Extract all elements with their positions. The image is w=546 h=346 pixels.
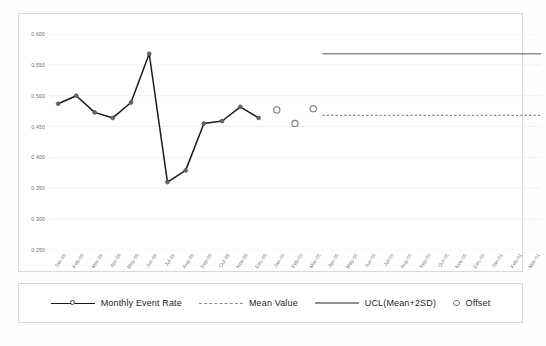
x-axis-tick: Jan-01 [491, 252, 505, 269]
x-axis-tick: Feb-99 [71, 252, 85, 269]
x-axis-tick: Jul-00 [382, 252, 395, 267]
y-axis-tick: 0.250 [31, 247, 45, 253]
x-axis: Jan-99Feb-99Mar-99Apr-99May-99Jun-99Jul-… [49, 252, 541, 286]
chart-legend: Monthly Event Rate Mean Value UCL(Mean+2… [18, 283, 523, 323]
offset-markers [274, 106, 317, 127]
x-axis-tick: Jan-00 [272, 252, 286, 269]
chart-panel: 0.600 0.550 0.500 0.450 0.400 0.350 0.30… [18, 13, 523, 272]
y-axis-tick: 0.350 [31, 185, 45, 191]
x-axis-tick: Dec-00 [472, 252, 486, 269]
x-axis-tick: Feb-00 [290, 252, 304, 269]
x-axis-tick: Oct-00 [436, 252, 450, 268]
x-axis-tick: Sep-00 [417, 252, 431, 269]
plot-area [49, 34, 541, 250]
open-circle-icon [453, 300, 460, 307]
y-axis-tick: 0.400 [31, 154, 45, 160]
x-axis-tick: Nov-99 [235, 252, 249, 269]
chart-screenshot: 0.600 0.550 0.500 0.450 0.400 0.350 0.30… [0, 0, 546, 346]
y-axis-tick: 0.450 [31, 124, 45, 130]
x-axis-tick: Mar-99 [89, 252, 103, 269]
legend-label: Monthly Event Rate [101, 298, 182, 308]
x-axis-tick: Apr-00 [327, 252, 341, 268]
legend-label: Mean Value [249, 298, 298, 308]
x-axis-tick: Aug-00 [399, 252, 413, 269]
y-axis-tick: 0.550 [31, 62, 45, 68]
x-axis-tick: Dec-99 [253, 252, 267, 269]
y-axis-tick: 0.300 [31, 216, 45, 222]
x-axis-tick: May-00 [344, 252, 359, 270]
legend-item-ucl: UCL(Mean+2SD) [315, 298, 436, 308]
legend-label: UCL(Mean+2SD) [365, 298, 436, 308]
x-axis-tick: Mar-01 [527, 252, 541, 269]
legend-label: Offset [466, 298, 491, 308]
y-axis: 0.600 0.550 0.500 0.450 0.400 0.350 0.30… [19, 34, 45, 250]
x-axis-tick: Jun-00 [363, 252, 377, 269]
line-marker-icon [51, 299, 95, 308]
x-axis-tick: Jul-99 [163, 252, 176, 267]
x-axis-tick: Jan-99 [53, 252, 67, 269]
x-axis-tick: Sep-99 [199, 252, 213, 269]
legend-item-monthly-event-rate: Monthly Event Rate [51, 298, 182, 308]
legend-item-mean-value: Mean Value [199, 298, 298, 308]
x-axis-tick: Apr-99 [108, 252, 122, 268]
y-axis-tick: 0.500 [31, 93, 45, 99]
x-axis-tick: Nov-00 [454, 252, 468, 269]
x-axis-tick: Jun-99 [144, 252, 158, 269]
x-axis-tick: May-99 [125, 252, 140, 270]
x-axis-tick: Oct-99 [217, 252, 231, 268]
monthly-event-rate-line [58, 54, 258, 182]
solid-line-icon [315, 302, 359, 303]
gridlines [49, 34, 541, 250]
reference-lines [322, 54, 541, 116]
y-axis-tick: 0.600 [31, 31, 45, 37]
legend-item-offset: Offset [453, 298, 490, 308]
plot-svg [49, 34, 541, 250]
x-axis-tick: Feb-01 [508, 252, 522, 269]
dashed-line-icon [199, 303, 243, 304]
x-axis-tick: Mar-00 [308, 252, 322, 269]
x-axis-tick: Aug-99 [180, 252, 194, 269]
